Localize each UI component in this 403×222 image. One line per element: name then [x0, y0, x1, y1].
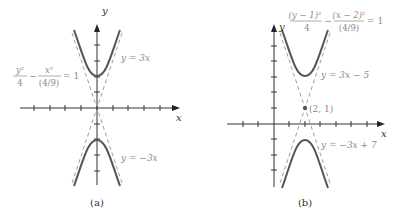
svg-text:= 1: = 1: [63, 71, 79, 81]
svg-text:4: 4: [17, 78, 22, 88]
svg-text:x²: x²: [45, 65, 54, 75]
svg-text:(4/9): (4/9): [339, 23, 359, 33]
hyperbola-figure: y x y = 3x y = −3x y² 4 − x² (4/9) = 1 (…: [0, 0, 403, 222]
x-axis-label: x: [176, 112, 182, 123]
equation-a: y² 4 − x² (4/9) = 1: [13, 65, 79, 88]
center-label: (2, 1): [309, 104, 333, 114]
panel-b: (2, 1) y x y = 3x − 5 y = −3x + 7 (y − 1…: [227, 10, 387, 208]
x-axis-arrow-icon: [377, 121, 385, 127]
panel-a: y x y = 3x y = −3x y² 4 − x² (4/9) = 1 (…: [13, 5, 182, 208]
svg-text:−: −: [29, 71, 37, 81]
caption-b: (b): [298, 197, 312, 208]
y-axis-arrow-icon: [94, 24, 100, 32]
equation-b: (y − 1)² 4 − (x − 2)² (4/9) = 1: [289, 10, 384, 33]
svg-text:= 1: = 1: [367, 16, 383, 26]
asymptote-upper-label: y = 3x − 5: [320, 70, 369, 80]
x-axis-label: x: [381, 128, 387, 139]
svg-text:(x − 2)²: (x − 2)²: [333, 10, 366, 20]
y-axis-arrow-icon: [271, 24, 277, 32]
svg-text:y²: y²: [15, 65, 25, 75]
center-point: [303, 106, 307, 110]
svg-text:−: −: [324, 16, 332, 26]
asymptote-upper-label: y = 3x: [120, 53, 150, 63]
y-axis-label: y: [278, 21, 285, 32]
svg-text:(4/9): (4/9): [39, 78, 59, 88]
asymptote-lower-label: y = −3x + 7: [320, 140, 377, 150]
y-axis-label: y: [101, 5, 108, 16]
svg-text:4: 4: [304, 23, 309, 33]
svg-text:(y − 1)²: (y − 1)²: [289, 10, 322, 20]
caption-a: (a): [90, 197, 104, 208]
x-axis-arrow-icon: [172, 105, 180, 111]
asymptote-lower-label: y = −3x: [120, 153, 158, 163]
